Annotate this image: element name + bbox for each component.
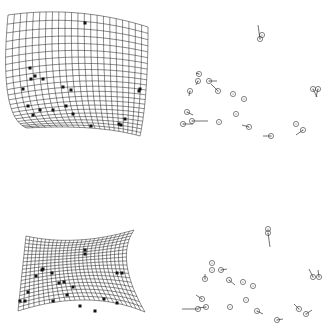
landmark-vector: [303, 310, 312, 317]
landmark-vector: [274, 317, 283, 322]
landmark-point: [27, 105, 30, 108]
top-landmark-vector-plot: [180, 25, 320, 139]
landmark-vector: [184, 109, 193, 115]
landmark-point: [29, 67, 32, 70]
landmark-vector: [206, 78, 217, 83]
bottom-landmark-vector-plot: [182, 226, 322, 322]
landmark-vector: [216, 119, 221, 124]
landmark-vector: [233, 111, 238, 116]
landmark-vector: [227, 304, 232, 309]
landmark-vector: [182, 306, 201, 311]
landmark-vector: [310, 86, 317, 97]
landmark-point: [52, 300, 55, 303]
landmark-vector: [195, 78, 200, 85]
landmark-point: [27, 291, 30, 294]
landmark-point: [121, 272, 124, 275]
landmark-point: [84, 249, 87, 252]
top-deformation-grid: [6, 12, 148, 136]
landmark-vector: [202, 274, 207, 282]
landmark-vector: [209, 260, 214, 265]
landmark-point: [116, 302, 119, 305]
landmark-vector: [250, 283, 255, 288]
landmark-point: [22, 88, 25, 91]
landmark-point: [58, 282, 61, 285]
landmark-vector: [296, 127, 306, 135]
landmark-point: [52, 109, 55, 112]
landmark-point: [84, 253, 87, 256]
landmark-point: [94, 310, 97, 313]
grid-lines: [6, 12, 148, 136]
landmark-point: [90, 125, 93, 128]
landmark-vector: [259, 32, 264, 37]
landmark-vector: [211, 84, 221, 94]
landmark-vector: [240, 279, 245, 284]
landmark-point: [84, 22, 87, 25]
landmark-point: [19, 300, 22, 303]
landmark-vector: [265, 230, 270, 247]
landmark-point: [24, 300, 27, 303]
landmark-vector: [196, 71, 202, 76]
landmark-vector: [254, 308, 263, 314]
landmark-vector: [209, 267, 214, 272]
landmark-vector: [293, 121, 298, 126]
landmark-point: [124, 118, 127, 121]
landmark-vector: [196, 295, 205, 302]
landmark-point: [42, 268, 45, 271]
landmark-point: [116, 272, 119, 275]
landmark-vector: [241, 96, 246, 101]
figure-canvas: [0, 0, 334, 329]
landmark-vector: [218, 267, 227, 272]
landmark-point: [65, 105, 68, 108]
landmark-point: [66, 294, 69, 297]
bottom-deformation-grid: [18, 230, 145, 313]
landmark-vector: [180, 121, 193, 126]
landmark-point: [138, 90, 141, 93]
landmark-point: [103, 298, 106, 301]
landmark-vector: [315, 86, 320, 97]
landmark-point: [42, 78, 45, 81]
grid-lines: [18, 230, 145, 312]
landmark-vector: [187, 88, 192, 96]
landmark-point: [120, 124, 123, 127]
landmark-vector: [263, 133, 274, 138]
landmark-vector: [243, 297, 248, 302]
landmark-point: [51, 272, 54, 275]
landmark-vector: [294, 304, 302, 312]
landmark-vector: [309, 269, 316, 280]
landmark-point: [63, 281, 66, 284]
landmark-point: [30, 78, 33, 81]
landmark-point: [32, 114, 35, 117]
landmark-point: [62, 86, 65, 89]
landmark-point: [34, 75, 37, 78]
landmark-point: [72, 113, 75, 116]
landmark-vector: [316, 270, 321, 280]
landmark-point: [70, 89, 73, 92]
landmark-vector: [230, 91, 235, 96]
landmark-point: [35, 275, 38, 278]
landmark-vector: [226, 277, 235, 285]
landmark-point: [79, 305, 82, 308]
landmark-point: [72, 286, 75, 289]
landmark-point: [39, 109, 42, 112]
landmark-vector: [189, 118, 208, 123]
landmark-vector: [242, 124, 252, 129]
